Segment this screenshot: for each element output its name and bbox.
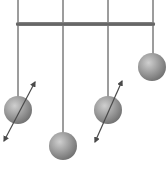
pendulum-1 — [4, 26, 35, 141]
pendulum-3 — [94, 26, 122, 142]
pendulum-2 — [49, 26, 77, 160]
pendulum-4 — [138, 26, 166, 81]
pendulum-diagram — [0, 0, 168, 171]
support-strings-top — [18, 0, 153, 24]
pendulum-ball — [49, 132, 77, 160]
pendulum-ball — [94, 96, 122, 124]
pendulum-ball — [138, 53, 166, 81]
horizontal-bar — [16, 22, 155, 26]
pendulum-ball — [4, 96, 32, 124]
